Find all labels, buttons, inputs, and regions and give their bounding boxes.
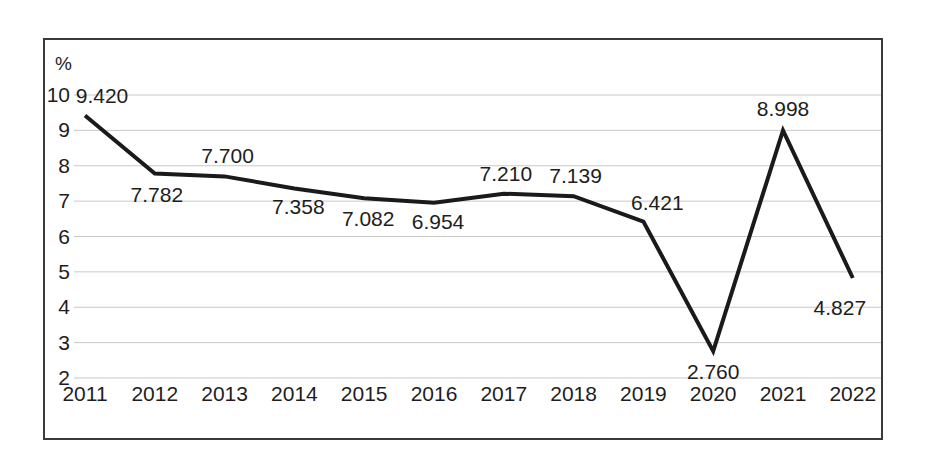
y-axis-tick-label: 6 — [44, 226, 70, 247]
x-axis-tick-label: 2019 — [608, 383, 678, 404]
data-point-label: 2.760 — [673, 361, 753, 382]
data-point-label: 7.082 — [328, 208, 408, 229]
y-axis-tick-label: 9 — [44, 119, 70, 140]
x-axis-tick-label: 2011 — [50, 383, 120, 404]
x-axis-tick-label: 2016 — [399, 383, 469, 404]
data-point-label: 7.700 — [188, 145, 268, 166]
data-point-label: 7.139 — [536, 165, 616, 186]
y-axis-tick-label: 8 — [44, 155, 70, 176]
x-axis-tick-label: 2017 — [469, 383, 539, 404]
y-axis-tick-label: 5 — [44, 261, 70, 282]
data-point-label: 9.420 — [62, 85, 142, 106]
data-point-label: 7.210 — [466, 163, 546, 184]
x-axis-tick-label: 2012 — [120, 383, 190, 404]
data-point-label: 7.782 — [117, 184, 197, 205]
x-axis-tick-label: 2013 — [190, 383, 260, 404]
data-point-label: 6.954 — [398, 211, 478, 232]
line-chart: % 1098765432 201120122013201420152016201… — [0, 0, 926, 464]
x-axis-tick-label: 2018 — [539, 383, 609, 404]
y-axis-tick-label: 4 — [44, 296, 70, 317]
data-point-label: 8.998 — [743, 98, 823, 119]
y-axis-tick-label: 7 — [44, 190, 70, 211]
y-axis-tick-label: 3 — [44, 332, 70, 353]
x-axis-tick-label: 2015 — [329, 383, 399, 404]
y-axis-unit-label: % — [55, 53, 72, 75]
data-point-label: 6.421 — [617, 192, 697, 213]
x-axis-tick-label: 2022 — [818, 383, 888, 404]
x-axis-tick-label: 2021 — [748, 383, 818, 404]
x-axis-tick-label: 2014 — [259, 383, 329, 404]
x-axis-tick-label: 2020 — [678, 383, 748, 404]
data-point-label: 7.358 — [258, 196, 338, 217]
data-point-label: 4.827 — [800, 297, 880, 318]
